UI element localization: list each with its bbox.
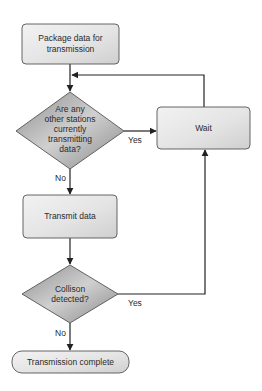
node-label-line: Collison (55, 284, 86, 294)
node-label-line: Wait (195, 123, 212, 133)
node-label-line: data? (59, 144, 81, 154)
node-wait: Wait (157, 107, 250, 149)
edge-label-yes-1: Yes (128, 135, 142, 145)
edge-check-yes: Yes (124, 131, 156, 145)
edge-collision-yes: Yes (118, 150, 205, 308)
node-check-stations-decision: Are any other stations currently transmi… (16, 92, 124, 169)
edge-label-yes-2: Yes (128, 298, 142, 308)
edge-label-no-2: No (55, 328, 66, 338)
node-label-line: Package data for (38, 33, 102, 43)
node-transmit-data: Transmit data (23, 195, 117, 238)
node-label-line: detected? (51, 294, 89, 304)
edge-label-no-1: No (55, 173, 66, 183)
node-label-line: Transmission complete (27, 357, 114, 367)
node-package-data: Package data for transmission (22, 24, 119, 64)
node-label-line: transmitting (48, 134, 92, 144)
node-transmission-complete: Transmission complete (12, 351, 129, 373)
flowchart-canvas: Yes No Yes No Package data for transmiss… (0, 0, 262, 391)
edge-collision-no: No (55, 323, 70, 350)
node-label-line: Are any (55, 104, 85, 114)
node-label-line: Transmit data (44, 211, 96, 221)
node-label-line: transmission (47, 44, 95, 54)
node-label-line: currently (54, 124, 87, 134)
node-collision-decision: Collison detected? (22, 265, 118, 323)
edge-wait-loop (72, 75, 204, 107)
node-label-line: other stations (44, 114, 95, 124)
edge-check-no: No (55, 168, 70, 194)
